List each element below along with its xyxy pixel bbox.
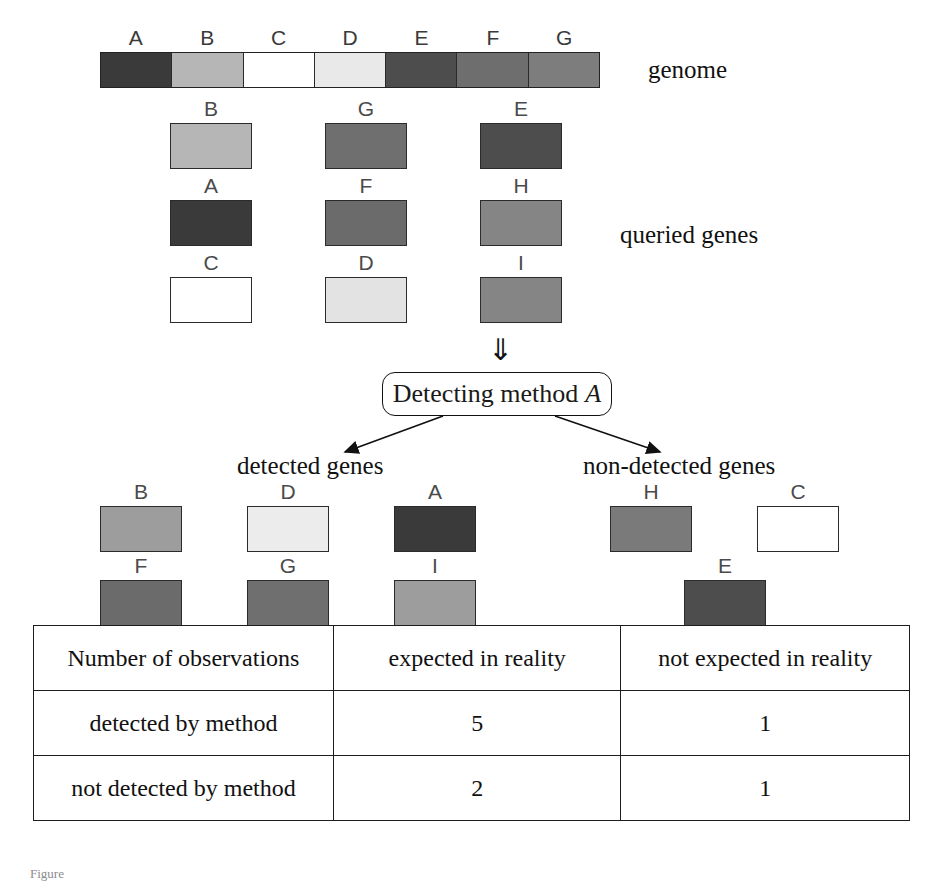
contingency-table: Number of observationsexpected in realit… bbox=[33, 625, 910, 821]
method-name-label: A bbox=[585, 379, 601, 409]
queried-gene-box-f bbox=[325, 200, 407, 246]
genome-segment-g bbox=[529, 53, 599, 87]
detected-gene-label-g: G bbox=[247, 554, 329, 578]
method-prefix-label: Detecting method bbox=[393, 379, 579, 409]
table-header-cell-2: not expected in reality bbox=[621, 626, 910, 691]
non-detected-gene-label-h: H bbox=[610, 480, 692, 504]
queried-gene-box-h bbox=[480, 200, 562, 246]
queried-gene-label-f: F bbox=[325, 174, 407, 198]
queried-gene-box-i bbox=[480, 277, 562, 323]
genome-segment-label-e: E bbox=[385, 26, 457, 50]
queried-genes-label: queried genes bbox=[620, 221, 758, 249]
arrow-to-detected bbox=[345, 416, 443, 452]
non-detected-gene-label-e: E bbox=[684, 554, 766, 578]
queried-gene-label-b: B bbox=[170, 97, 252, 121]
genome-segment-label-c: C bbox=[243, 26, 315, 50]
table-header-row: Number of observationsexpected in realit… bbox=[34, 626, 910, 691]
queried-gene-box-c bbox=[170, 277, 252, 323]
queried-gene-label-g: G bbox=[325, 97, 407, 121]
queried-gene-label-h: H bbox=[480, 174, 562, 198]
table-header-cell-1: expected in reality bbox=[333, 626, 621, 691]
genome-segment-label-a: A bbox=[100, 26, 172, 50]
detected-gene-box-g bbox=[247, 580, 329, 626]
non-detected-genes-header: non-detected genes bbox=[583, 452, 775, 480]
genome-segment-d bbox=[315, 53, 386, 87]
detected-gene-label-d: D bbox=[247, 480, 329, 504]
detected-gene-label-b: B bbox=[100, 480, 182, 504]
table-header-cell-0: Number of observations bbox=[34, 626, 334, 691]
queried-gene-label-a: A bbox=[170, 174, 252, 198]
non-detected-gene-box-h bbox=[610, 506, 692, 552]
queried-gene-box-g bbox=[325, 123, 407, 169]
table-row-label-0: detected by method bbox=[34, 691, 334, 756]
genome-segment-f bbox=[457, 53, 528, 87]
detected-gene-box-i bbox=[394, 580, 476, 626]
non-detected-gene-box-e bbox=[684, 580, 766, 626]
detected-gene-box-f bbox=[100, 580, 182, 626]
table-row: detected by method51 bbox=[34, 691, 910, 756]
arrow-to-non-detected bbox=[555, 416, 660, 452]
queried-gene-label-i: I bbox=[480, 251, 562, 275]
detected-gene-label-a: A bbox=[394, 480, 476, 504]
queried-gene-box-a bbox=[170, 200, 252, 246]
detected-gene-box-d bbox=[247, 506, 329, 552]
table-row-label-1: not detected by method bbox=[34, 756, 334, 821]
queried-gene-box-d bbox=[325, 277, 407, 323]
genome-segment-a bbox=[101, 53, 172, 87]
table-not-expected-value-1: 1 bbox=[621, 756, 910, 821]
detected-gene-label-i: I bbox=[394, 554, 476, 578]
queried-gene-label-e: E bbox=[480, 97, 562, 121]
genome-segment-label-b: B bbox=[171, 26, 243, 50]
down-double-arrow-icon: ⇓ bbox=[480, 335, 520, 365]
genome-segment-label-d: D bbox=[314, 26, 386, 50]
genome-segment-label-g: G bbox=[528, 26, 600, 50]
queried-gene-box-b bbox=[170, 123, 252, 169]
queried-gene-box-e bbox=[480, 123, 562, 169]
detected-gene-box-a bbox=[394, 506, 476, 552]
table-expected-value-1: 2 bbox=[333, 756, 621, 821]
detected-gene-box-b bbox=[100, 506, 182, 552]
genome-label: genome bbox=[648, 56, 727, 84]
queried-gene-label-c: C bbox=[170, 251, 252, 275]
genome-bar bbox=[100, 52, 600, 88]
genome-segment-b bbox=[172, 53, 243, 87]
table-row: not detected by method21 bbox=[34, 756, 910, 821]
figure-canvas: ABCDEFG genome BGEAFHCDI queried genes ⇓… bbox=[0, 0, 943, 884]
genome-segment-label-f: F bbox=[457, 26, 529, 50]
detected-gene-label-f: F bbox=[100, 554, 182, 578]
non-detected-gene-box-c bbox=[757, 506, 839, 552]
detected-genes-header: detected genes bbox=[237, 452, 383, 480]
genome-segment-c bbox=[244, 53, 315, 87]
table-expected-value-0: 5 bbox=[333, 691, 621, 756]
table-not-expected-value-0: 1 bbox=[621, 691, 910, 756]
genome-segment-e bbox=[386, 53, 457, 87]
detecting-method-box: Detecting method A bbox=[382, 372, 612, 416]
queried-gene-label-d: D bbox=[325, 251, 407, 275]
non-detected-gene-label-c: C bbox=[757, 480, 839, 504]
figure-caption: Figure bbox=[30, 866, 330, 882]
